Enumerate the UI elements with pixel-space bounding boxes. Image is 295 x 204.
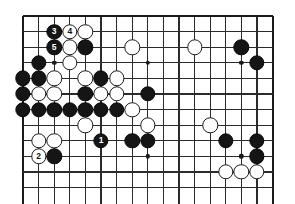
stone-move-number: 2 [36, 152, 41, 161]
black-stone[interactable] [15, 102, 30, 117]
white-stone[interactable] [202, 117, 217, 132]
white-stone[interactable]: 2 [31, 149, 46, 164]
black-stone[interactable] [218, 133, 233, 148]
white-stone[interactable] [78, 71, 93, 86]
star-point [239, 61, 243, 65]
white-stone[interactable] [109, 71, 124, 86]
black-stone[interactable] [31, 55, 46, 70]
star-point [146, 61, 150, 65]
black-stone[interactable]: 3 [46, 24, 61, 39]
white-stone[interactable] [46, 71, 61, 86]
board-line-horizontal [23, 187, 273, 188]
black-stone[interactable] [140, 133, 155, 148]
black-stone[interactable] [31, 71, 46, 86]
board-line-horizontal [23, 15, 273, 17]
black-stone[interactable] [93, 102, 108, 117]
black-stone[interactable] [46, 102, 61, 117]
go-diagram-root: 34512 [0, 0, 295, 204]
white-stone[interactable] [109, 86, 124, 101]
black-stone[interactable] [249, 133, 264, 148]
black-stone[interactable] [249, 55, 264, 70]
black-stone[interactable] [249, 149, 264, 164]
black-stone[interactable] [62, 102, 77, 117]
white-stone[interactable] [218, 164, 233, 179]
stone-move-number: 4 [67, 27, 72, 36]
black-stone[interactable] [140, 86, 155, 101]
stone-move-number: 5 [52, 43, 57, 52]
white-stone[interactable] [93, 86, 108, 101]
white-stone[interactable] [249, 164, 264, 179]
stone-move-number: 1 [99, 137, 104, 146]
white-stone[interactable] [78, 117, 93, 132]
white-stone[interactable] [62, 55, 77, 70]
star-point [239, 154, 243, 158]
white-stone[interactable] [31, 86, 46, 101]
black-stone[interactable] [109, 102, 124, 117]
black-stone[interactable] [124, 133, 139, 148]
black-stone[interactable] [46, 149, 61, 164]
black-stone[interactable] [31, 102, 46, 117]
white-stone[interactable] [124, 102, 139, 117]
white-stone[interactable]: 4 [62, 24, 77, 39]
white-stone[interactable] [62, 39, 77, 54]
black-stone[interactable] [15, 71, 30, 86]
stone-move-number: 3 [52, 27, 57, 36]
white-stone[interactable] [187, 39, 202, 54]
black-stone[interactable]: 5 [46, 39, 61, 54]
black-stone[interactable] [234, 39, 249, 54]
star-point [146, 154, 150, 158]
black-stone[interactable] [15, 86, 30, 101]
white-stone[interactable] [31, 133, 46, 148]
black-stone[interactable] [78, 39, 93, 54]
white-stone[interactable] [124, 39, 139, 54]
go-board[interactable]: 34512 [0, 0, 295, 204]
black-stone[interactable] [78, 86, 93, 101]
white-stone[interactable] [234, 164, 249, 179]
white-stone[interactable] [46, 86, 61, 101]
star-point [52, 61, 56, 65]
black-stone[interactable] [78, 102, 93, 117]
white-stone[interactable] [78, 24, 93, 39]
white-stone[interactable] [140, 117, 155, 132]
black-stone[interactable] [93, 71, 108, 86]
black-stone[interactable]: 1 [93, 133, 108, 148]
white-stone[interactable] [46, 133, 61, 148]
